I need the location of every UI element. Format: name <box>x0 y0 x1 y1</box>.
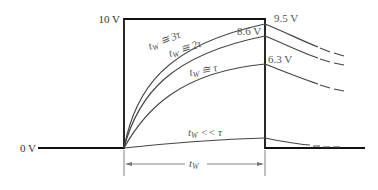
high-voltage-label: 10 V <box>99 13 121 25</box>
discharge-curves <box>265 24 344 147</box>
final-voltage-tau: 6.3 V <box>268 53 292 65</box>
final-voltage-3tau: 9.5 V <box>274 12 298 24</box>
condition-label-much-less-tau: tW << τ <box>188 126 223 140</box>
pulse-width-label: tW <box>189 157 200 171</box>
zero-voltage-label: 0 V <box>20 142 36 154</box>
final-voltage-2tau: 8.6 V <box>237 25 261 37</box>
arrow-left-icon <box>125 162 132 166</box>
rc-pulse-diagram: 10 V 0 V 9.5 V 8.6 V 6.3 V tW ≅ 3τ tW ≅ … <box>0 0 378 190</box>
arrow-right-icon <box>257 162 264 166</box>
